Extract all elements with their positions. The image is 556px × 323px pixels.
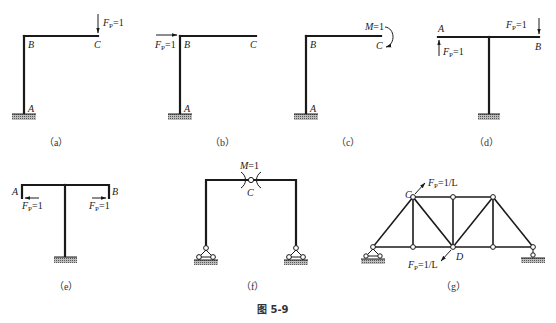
panel-caption: （f） [241, 281, 264, 292]
node-label-c: C [94, 39, 101, 50]
node-label-b: B [28, 39, 34, 50]
fixed-support-icon [12, 114, 36, 120]
panel-caption: （c） [336, 137, 360, 148]
moment-label: M=1 [364, 21, 384, 32]
node-label-b: B [310, 39, 316, 50]
figure-canvas: FP=1 B C A （a） FP=1 B C A （b） M=1 B C A … [0, 0, 556, 323]
panel-g: FP=1/L FP=1/L C D （g） [361, 177, 545, 292]
hinge-c-icon [248, 177, 253, 182]
panel-c: M=1 B C A （c） [294, 21, 393, 148]
panel-caption: （d） [474, 137, 499, 148]
figure-caption: 图 5-9 [257, 304, 289, 315]
node-label-a: A [183, 103, 191, 114]
load-label: FP=1 [102, 17, 124, 30]
moment-clockwise-icon [385, 27, 393, 47]
fixed-support-icon [478, 114, 500, 120]
load-label-b: FP=1 [505, 19, 527, 32]
node-label-c: C [250, 39, 257, 50]
panel-e: A B FP=1 FP=1 （e） [11, 185, 118, 292]
node-label-a: A [27, 103, 35, 114]
load-label-d: FP=1/L [407, 259, 438, 272]
right-frame-member [254, 180, 296, 246]
pinned-support-right-icon [284, 246, 308, 265]
node-label-a: A [309, 103, 317, 114]
pinned-support-left-icon [194, 246, 218, 265]
node-label-b: B [535, 41, 541, 52]
panel-f: M=1 C （f） [194, 160, 308, 292]
truss-members [373, 197, 533, 247]
fixed-support-icon [168, 114, 192, 120]
node-label-b: B [184, 39, 190, 50]
roller-support-icon [521, 249, 545, 263]
panel-b: FP=1 B C A （b） [154, 35, 257, 148]
panel-d: A B FP=1 FP=1 （d） [437, 18, 541, 148]
load-label: FP=1 [154, 39, 176, 52]
panel-caption: （a） [44, 137, 68, 148]
node-label-c: C [247, 187, 254, 198]
fixed-support-icon [294, 114, 318, 120]
node-label-b: B [112, 186, 118, 197]
load-label-a: FP=1 [21, 200, 43, 213]
node-label-a: A [437, 23, 445, 34]
load-label-a: FP=1 [442, 46, 464, 59]
load-label-b: FP=1 [88, 200, 110, 213]
panel-a: FP=1 B C A （a） [12, 14, 124, 148]
moment-label: M=1 [239, 160, 259, 171]
node-label-c: C [405, 189, 412, 200]
node-label-c: C [376, 40, 383, 51]
pinned-support-icon [361, 249, 385, 264]
panel-caption: （g） [441, 281, 466, 292]
node-label-a: A [11, 186, 19, 197]
panel-caption: （b） [210, 137, 235, 148]
force-arrow-d-icon [441, 250, 451, 261]
node-label-d: D [455, 251, 464, 262]
force-arrow-c-icon [415, 183, 425, 194]
load-label-c: FP=1/L [427, 177, 458, 190]
fixed-support-icon [54, 257, 77, 263]
panel-caption: （e） [54, 281, 78, 292]
left-frame-member [206, 180, 248, 246]
